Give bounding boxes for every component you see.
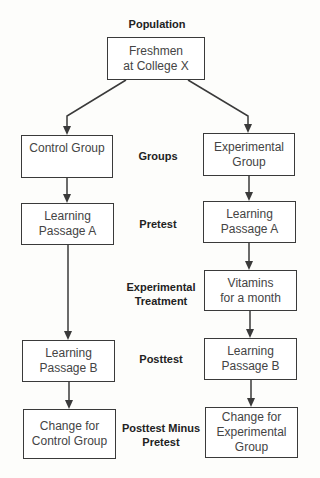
stage-label-pretest: Pretest bbox=[118, 217, 198, 231]
stage-label-groups: Groups bbox=[118, 149, 198, 163]
stage-label-posttest: Posttest bbox=[118, 352, 204, 366]
control-pretest-box: Learning Passage A bbox=[21, 203, 114, 245]
stage-label-population: Population bbox=[107, 17, 207, 31]
stage-label-treatment: Experimental Treatment bbox=[118, 280, 204, 308]
population-box: Freshmen at College X bbox=[107, 37, 205, 80]
treatment-box: Vitamins for a month bbox=[204, 270, 297, 311]
experimental-group-box: Experimental Group bbox=[203, 133, 295, 176]
control-posttest-box: Learning Passage B bbox=[22, 340, 115, 382]
experimental-change-box: Change for Experimental Group bbox=[205, 407, 298, 458]
control-change-box: Change for Control Group bbox=[23, 409, 116, 459]
control-group-box: Control Group bbox=[21, 135, 113, 178]
experimental-pretest-box: Learning Passage A bbox=[203, 201, 296, 243]
stage-label-difference: Posttest Minus Pretest bbox=[116, 421, 206, 449]
experimental-posttest-box: Learning Passage B bbox=[204, 338, 297, 380]
